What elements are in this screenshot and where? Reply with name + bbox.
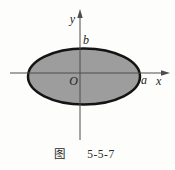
semi-minor-b-label: b <box>83 33 89 47</box>
figure-caption-number: 5-5-7 <box>87 148 114 160</box>
x-axis-label: x <box>155 74 162 88</box>
figure-caption-prefix: 图 <box>54 148 66 160</box>
textbook-figure: y b O a x 图 5-5-7 <box>0 0 175 170</box>
semi-major-a-label: a <box>141 73 147 87</box>
y-axis-label: y <box>69 12 76 26</box>
origin-label: O <box>69 74 78 88</box>
figure-canvas: y b O a x 图 5-5-7 <box>0 0 175 170</box>
